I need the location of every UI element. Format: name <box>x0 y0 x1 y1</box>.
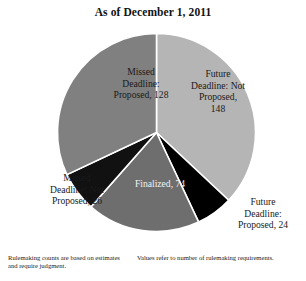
pie-chart-figure: As of December 1, 2011 Future Deadline: … <box>0 0 306 281</box>
slice-label-future-deadline-not-proposed: Future Deadline: Not Proposed, 148 <box>178 68 258 114</box>
slice-label-missed-deadline-proposed: Missed Deadline: Proposed, 128 <box>95 66 187 101</box>
slice-label-future-deadline-proposed: Future Deadline: Proposed, 24 <box>226 196 300 231</box>
slice-label-finalized: Finalized, 74 <box>118 178 202 190</box>
footnote-right: Values refer to number of rulemaking req… <box>137 254 302 262</box>
pie-chart: Future Deadline: Not Proposed, 148 Futur… <box>56 32 257 233</box>
footnote-left: Rulemaking counts are based on estimates… <box>8 254 128 271</box>
slice-label-missed-deadline-not-proposed: Missed Deadline: Not Proposed, 26 <box>28 172 126 207</box>
chart-title: As of December 1, 2011 <box>0 6 306 18</box>
